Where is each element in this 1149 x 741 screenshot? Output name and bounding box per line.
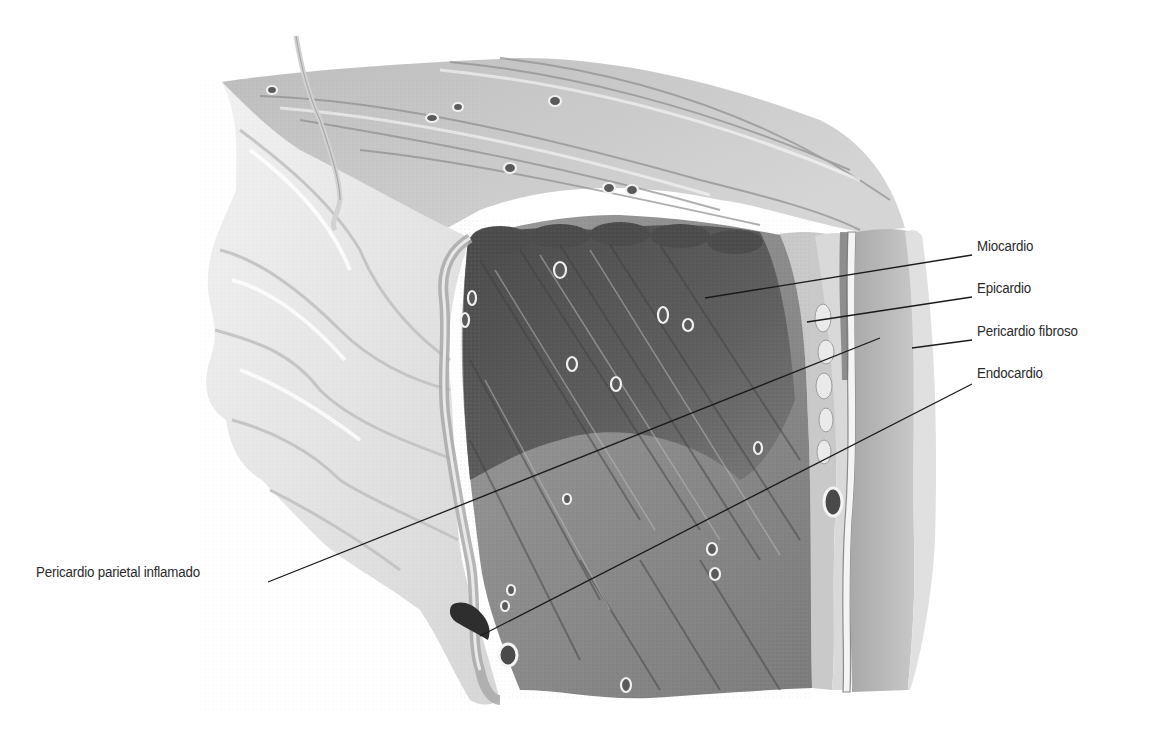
- label-epicardio: Epicardio: [977, 279, 1031, 297]
- label-pericardio-parietal-inflamado: Pericardio parietal inflamado: [36, 563, 200, 581]
- tissue-block: [200, 36, 936, 710]
- heart-wall-diagram: Miocardio Epicardio Pericardio fibroso E…: [0, 0, 1149, 741]
- label-endocardio: Endocardio: [977, 364, 1043, 382]
- fibrous-pericardium-layer: [850, 229, 914, 692]
- label-pericardio-fibroso: Pericardio fibroso: [977, 322, 1078, 340]
- label-miocardio: Miocardio: [977, 237, 1033, 255]
- coronary-vessel: [824, 488, 842, 516]
- large-vessel: [499, 644, 517, 666]
